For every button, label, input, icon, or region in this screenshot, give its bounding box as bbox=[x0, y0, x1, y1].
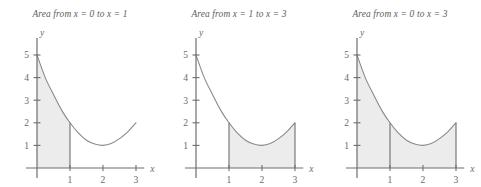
y-tick-label: 5 bbox=[183, 49, 188, 60]
plot-svg: 12312345xy bbox=[159, 26, 319, 187]
y-tick-label: 2 bbox=[183, 117, 188, 128]
x-axis-label: x bbox=[149, 163, 155, 174]
x-tick-label: 1 bbox=[388, 174, 393, 185]
y-tick-label: 3 bbox=[183, 95, 188, 106]
x-tick-label: 3 bbox=[454, 174, 459, 185]
y-tick-label: 1 bbox=[24, 140, 29, 151]
x-axis-label: x bbox=[469, 163, 475, 174]
x-tick-label: 2 bbox=[260, 174, 265, 185]
chart-panel-area-0-to-3: Area from x = 0 to x = 3 12312345xy bbox=[320, 0, 480, 187]
y-tick-label: 3 bbox=[344, 95, 349, 106]
x-tick-label: 1 bbox=[68, 174, 73, 185]
y-tick-label: 4 bbox=[24, 72, 29, 83]
y-axis-label: y bbox=[39, 27, 45, 38]
plot-area: 12312345xy bbox=[320, 26, 480, 187]
y-axis-label: y bbox=[359, 27, 365, 38]
area-under-curve-figure: Area from x = 0 to x = 1 12312345xy Area… bbox=[0, 0, 481, 187]
plot-svg: 12312345xy bbox=[0, 26, 160, 187]
y-axis-label: y bbox=[198, 27, 204, 38]
x-tick-label: 1 bbox=[227, 174, 232, 185]
x-tick-label: 3 bbox=[134, 174, 139, 185]
y-tick-label: 4 bbox=[344, 72, 349, 83]
x-tick-label: 2 bbox=[101, 174, 106, 185]
shaded-area bbox=[357, 55, 456, 168]
panel-title: Area from x = 0 to x = 3 bbox=[320, 9, 480, 19]
y-tick-label: 1 bbox=[344, 140, 349, 151]
y-tick-label: 2 bbox=[344, 117, 349, 128]
y-tick-label: 2 bbox=[24, 117, 29, 128]
y-tick-label: 5 bbox=[344, 49, 349, 60]
y-tick-label: 1 bbox=[183, 140, 188, 151]
panel-title: Area from x = 1 to x = 3 bbox=[159, 9, 319, 19]
shaded-area bbox=[37, 55, 70, 168]
x-tick-label: 2 bbox=[421, 174, 426, 185]
chart-panel-area-1-to-3: Area from x = 1 to x = 3 12312345xy bbox=[159, 0, 319, 187]
y-tick-label: 4 bbox=[183, 72, 188, 83]
panel-title: Area from x = 0 to x = 1 bbox=[0, 9, 160, 19]
x-tick-label: 3 bbox=[293, 174, 298, 185]
plot-area: 12312345xy bbox=[0, 26, 160, 187]
plot-svg: 12312345xy bbox=[320, 26, 480, 187]
y-tick-label: 5 bbox=[24, 49, 29, 60]
chart-panel-area-0-to-1: Area from x = 0 to x = 1 12312345xy bbox=[0, 0, 160, 187]
x-axis-label: x bbox=[308, 163, 314, 174]
plot-area: 12312345xy bbox=[159, 26, 319, 187]
function-curve bbox=[196, 55, 295, 145]
y-tick-label: 3 bbox=[24, 95, 29, 106]
